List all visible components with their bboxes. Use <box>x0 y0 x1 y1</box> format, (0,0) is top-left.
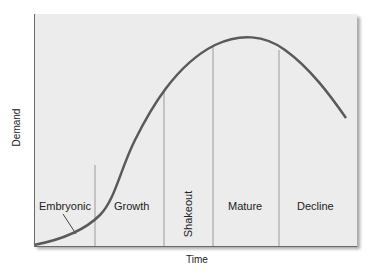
stage-label-decline: Decline <box>297 200 334 212</box>
stage-label-embryonic: Embryonic <box>39 200 91 212</box>
embryonic-pointer <box>63 214 76 234</box>
stage-label-growth: Growth <box>114 200 149 212</box>
y-axis-label: Demand <box>11 108 22 148</box>
stage-label-shakeout: Shakeout <box>182 187 194 241</box>
x-axis <box>34 246 357 247</box>
stage-label-mature: Mature <box>228 200 262 212</box>
x-axis-label: Time <box>186 254 208 265</box>
y-axis <box>34 14 35 246</box>
